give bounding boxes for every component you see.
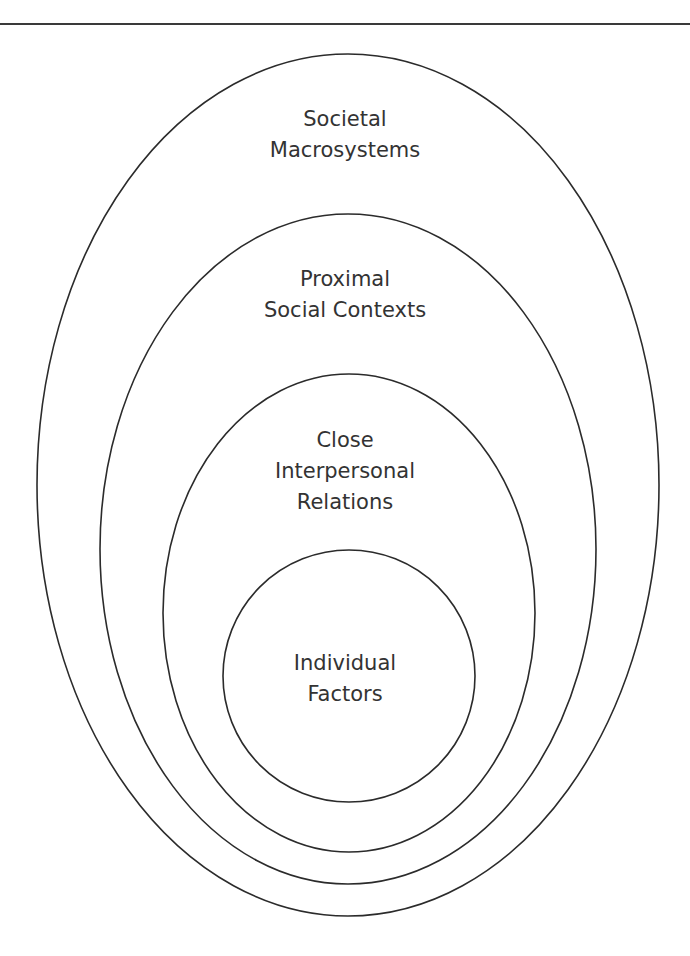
label-individual-factors: Individual Factors [0, 648, 690, 710]
label-line: Close [0, 425, 690, 456]
label-line: Factors [0, 679, 690, 710]
ecological-model-diagram: Societal Macrosystems Proximal Social Co… [0, 0, 690, 956]
label-line: Societal [0, 104, 690, 135]
label-close-interpersonal-relations: Close Interpersonal Relations [0, 425, 690, 518]
label-line: Interpersonal [0, 456, 690, 487]
label-line: Macrosystems [0, 135, 690, 166]
label-proximal-social-contexts: Proximal Social Contexts [0, 264, 690, 326]
label-line: Relations [0, 487, 690, 518]
label-line: Individual [0, 648, 690, 679]
label-line: Proximal [0, 264, 690, 295]
label-societal-macrosystems: Societal Macrosystems [0, 104, 690, 166]
label-line: Social Contexts [0, 295, 690, 326]
